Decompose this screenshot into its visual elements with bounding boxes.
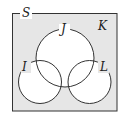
set-label-i: I (21, 60, 27, 74)
venn-diagram: S J I L K (0, 0, 127, 125)
region-label-k: K (97, 19, 108, 33)
set-label-l: L (99, 60, 108, 74)
universe-label-s: S (22, 6, 30, 20)
